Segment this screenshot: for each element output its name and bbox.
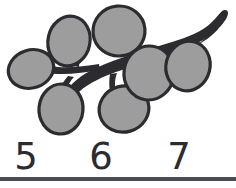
worksheet-page: 5 6 7 [0,0,236,188]
number-choice-5[interactable]: 5 [3,136,49,178]
footer-whitespace [0,181,236,188]
number-choice-7[interactable]: 7 [156,136,202,178]
number-choice-6[interactable]: 6 [78,136,124,178]
number-choices-row: 5 6 7 [0,136,236,178]
berry-branch-illustration [0,0,236,145]
